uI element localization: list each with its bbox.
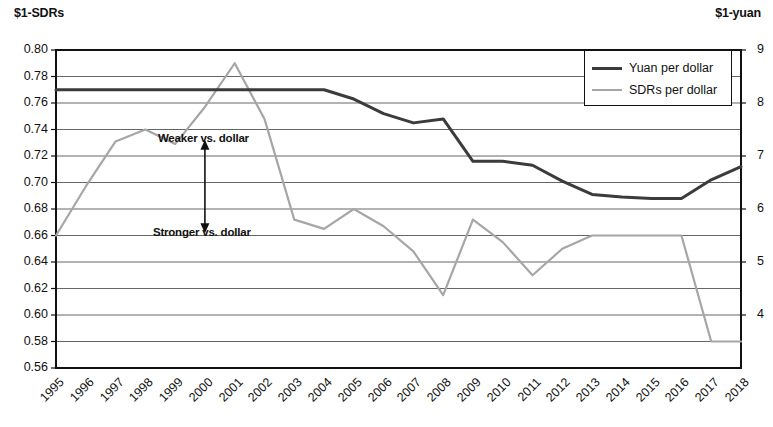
direction-arrow-icon bbox=[200, 140, 209, 234]
legend-item-yuan: Yuan per dollar bbox=[585, 57, 731, 79]
annotation-weaker-vs-dollar: Weaker vs. dollar bbox=[158, 132, 249, 144]
legend-swatch-sdrs-icon bbox=[592, 89, 622, 91]
legend-label-sdrs: SDRs per dollar bbox=[629, 83, 717, 97]
legend-item-sdrs: SDRs per dollar bbox=[585, 79, 731, 101]
chart-legend: Yuan per dollar SDRs per dollar bbox=[584, 50, 732, 106]
annotation-stronger-vs-dollar: Stronger vs. dollar bbox=[153, 226, 251, 238]
chart-container: $1-SDRs $1-yuan 0.800.780.760.740.720.70… bbox=[0, 0, 773, 427]
legend-swatch-yuan-icon bbox=[592, 67, 622, 70]
legend-label-yuan: Yuan per dollar bbox=[629, 61, 713, 75]
